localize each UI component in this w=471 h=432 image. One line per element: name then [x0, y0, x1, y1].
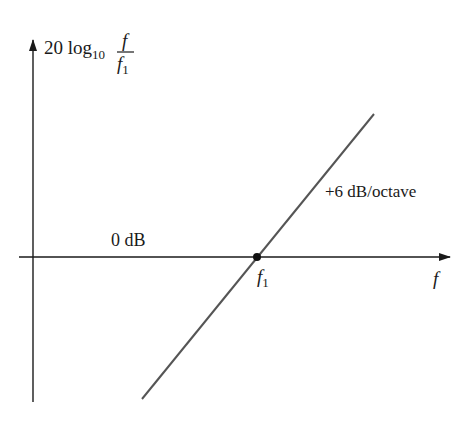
- corner-point: [253, 253, 261, 261]
- x-axis-label: f: [433, 268, 441, 289]
- corner-frequency-label: f1: [257, 266, 269, 290]
- y-axis-label: 20 log10: [44, 37, 105, 62]
- zero-db-label: 0 dB: [111, 230, 146, 250]
- y-axis-fraction-denominator: f1: [117, 53, 129, 77]
- y-axis-fraction-numerator: f: [122, 30, 130, 51]
- bode-diagram: 20 log10 f f1 0 dB f1 f +6 dB/octave: [0, 0, 471, 432]
- slope-label: +6 dB/octave: [325, 182, 416, 201]
